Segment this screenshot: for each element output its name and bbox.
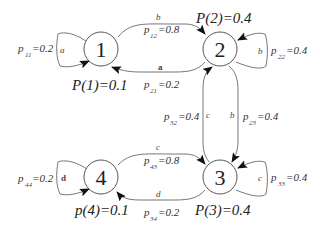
svg-text:32: 32 — [169, 119, 178, 127]
edge-3-2-prob: p 32 =0.4 — [163, 110, 200, 127]
svg-text:=0.8: =0.8 — [158, 154, 180, 166]
edge-1-1-symbol: a — [60, 45, 65, 55]
state-prob-3: P(3)=0.4 — [194, 202, 251, 219]
node-3-label: 3 — [215, 165, 226, 190]
edge-2-3-prob: p 23 =0.4 — [242, 110, 279, 127]
node-1: 1 — [84, 32, 118, 66]
edge-2-to-2 — [236, 33, 267, 68]
edge-3-2-symbol: c — [206, 110, 210, 120]
markov-chain-diagram: 1 2 3 4 P(1)=0.1 P(2)=0.4 P(3)=0.4 p(4)=… — [0, 0, 320, 231]
edge-4-4-symbol: d — [61, 173, 66, 183]
edge-4-4-prob: p 44 =0.2 — [17, 172, 54, 189]
node-2-label: 2 — [215, 37, 226, 62]
svg-text:=0.4: =0.4 — [178, 110, 200, 122]
svg-text:p: p — [143, 206, 150, 218]
svg-text:43: 43 — [150, 163, 158, 171]
svg-text:p: p — [143, 154, 150, 166]
svg-text:=0.4: =0.4 — [286, 44, 308, 56]
edge-3-to-3 — [236, 161, 267, 196]
edge-3-4-prob: p 34 =0.2 — [143, 206, 180, 223]
svg-text:=0.2: =0.2 — [32, 42, 54, 54]
edge-2-1-symbol: a — [158, 62, 163, 72]
state-prob-2: P(2)=0.4 — [195, 10, 252, 27]
svg-text:p: p — [242, 110, 249, 122]
edge-1-2-symbol: b — [156, 12, 161, 22]
edge-4-3-prob: p 43 =0.8 — [143, 154, 180, 171]
svg-text:=0.2: =0.2 — [158, 206, 180, 218]
svg-text:p: p — [143, 78, 150, 90]
edge-3-3-symbol: c — [258, 173, 262, 183]
svg-text:p: p — [17, 172, 24, 184]
svg-text:=0.4: =0.4 — [257, 110, 279, 122]
node-2: 2 — [203, 32, 237, 66]
edge-3-3-prob: p 33 =0.4 — [270, 171, 308, 188]
svg-text:22: 22 — [278, 53, 286, 61]
svg-text:23: 23 — [249, 119, 257, 127]
svg-text:p: p — [17, 42, 24, 54]
node-1-label: 1 — [96, 37, 107, 62]
edge-1-2-prob: p 12 =0.8 — [143, 23, 180, 40]
svg-text:11: 11 — [25, 51, 31, 59]
node-3: 3 — [203, 160, 237, 194]
edge-3-to-4 — [117, 190, 205, 200]
edge-2-2-prob: p 22 =0.4 — [270, 44, 308, 61]
edge-4-3-symbol: c — [156, 142, 160, 152]
svg-text:p: p — [270, 44, 277, 56]
edge-2-3-symbol: b — [230, 110, 235, 120]
state-prob-4: p(4)=0.1 — [74, 202, 129, 219]
svg-text:p: p — [163, 110, 170, 122]
svg-text:12: 12 — [150, 32, 158, 40]
edge-1-1-prob: p 11 =0.2 — [17, 42, 54, 59]
svg-text:21: 21 — [150, 87, 157, 95]
node-4: 4 — [84, 160, 118, 194]
svg-text:=0.2: =0.2 — [32, 172, 54, 184]
svg-text:p: p — [143, 23, 150, 35]
svg-text:=0.4: =0.4 — [286, 171, 308, 183]
state-prob-1: P(1)=0.1 — [71, 77, 128, 94]
svg-text:33: 33 — [277, 180, 286, 188]
svg-text:=0.2: =0.2 — [158, 78, 180, 90]
svg-text:34: 34 — [149, 215, 158, 223]
svg-text:=0.8: =0.8 — [158, 23, 180, 35]
edge-2-2-symbol: b — [258, 46, 263, 56]
svg-text:p: p — [270, 171, 277, 183]
edge-3-4-symbol: d — [156, 189, 161, 199]
edge-2-1-prob: p 21 =0.2 — [143, 78, 180, 95]
node-4-label: 4 — [96, 165, 107, 190]
